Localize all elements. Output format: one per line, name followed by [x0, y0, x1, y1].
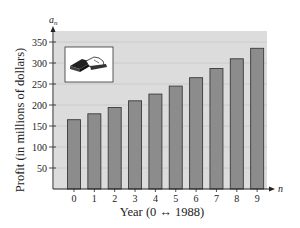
x-tick-label: 8 [234, 193, 239, 204]
x-tick-label: 6 [194, 193, 199, 204]
y-axis-variable: an [49, 14, 58, 27]
y-tick-label: 50 [37, 163, 47, 174]
x-tick-label: 9 [255, 193, 260, 204]
bar [230, 59, 243, 189]
y-tick-label: 200 [32, 100, 47, 111]
bar [251, 48, 264, 189]
y-tick-label: 250 [32, 79, 47, 90]
bar [169, 86, 182, 189]
x-ticks: 0123456789 [72, 189, 260, 204]
x-axis-arrow-icon [269, 187, 275, 192]
profit-bar-chart: 50100150200250300350 0123456789 an n Yea… [0, 0, 300, 228]
x-tick-label: 5 [173, 193, 178, 204]
bar [129, 101, 142, 189]
y-tick-label: 100 [32, 142, 47, 153]
y-ticks: 50100150200250300350 [32, 37, 56, 174]
bar [88, 114, 101, 189]
x-axis-title: Year (0 ↔ 1988) [120, 205, 205, 219]
x-tick-label: 0 [72, 193, 77, 204]
bar [68, 120, 81, 189]
x-tick-label: 4 [153, 193, 158, 204]
x-tick-label: 1 [92, 193, 97, 204]
x-tick-label: 3 [133, 193, 138, 204]
x-tick-label: 7 [214, 193, 219, 204]
y-axis-title: Profit (in millions of dollars) [13, 48, 27, 192]
y-tick-label: 300 [32, 58, 47, 69]
bar [149, 94, 162, 189]
bar [108, 108, 121, 189]
x-tick-label: 2 [112, 193, 117, 204]
bar [210, 68, 223, 189]
y-tick-label: 150 [32, 121, 47, 132]
x-axis-variable: n [278, 183, 283, 194]
inset-icon-box [65, 47, 113, 82]
y-tick-label: 350 [32, 37, 47, 48]
bar [190, 78, 203, 189]
